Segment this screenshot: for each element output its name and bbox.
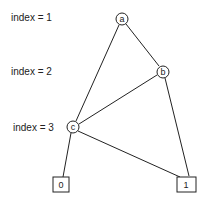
node-b-label: b bbox=[160, 67, 165, 77]
node-c: c bbox=[67, 121, 79, 133]
node-c-label: c bbox=[71, 122, 76, 132]
level-labels: index = 1 index = 2 index = 3 bbox=[11, 12, 54, 133]
level-label-2: index = 2 bbox=[11, 66, 52, 77]
bdd-diagram: index = 1 index = 2 index = 3 a b c 0 1 bbox=[0, 0, 211, 201]
terminal-zero: 0 bbox=[53, 177, 69, 192]
terminal-one-label: 1 bbox=[183, 180, 188, 190]
level-label-3: index = 3 bbox=[13, 122, 54, 133]
terminal-one: 1 bbox=[177, 177, 196, 192]
edges bbox=[63, 24, 189, 177]
node-b: b bbox=[157, 66, 169, 78]
edge-b-c bbox=[79, 75, 157, 124]
node-a: a bbox=[116, 13, 128, 25]
edge-b-one bbox=[165, 78, 189, 176]
edge-c-zero bbox=[63, 133, 71, 177]
edge-a-b bbox=[126, 24, 159, 66]
edge-c-one bbox=[78, 131, 180, 177]
node-a-label: a bbox=[119, 14, 124, 24]
edge-a-c bbox=[76, 25, 119, 121]
terminal-zero-label: 0 bbox=[58, 180, 63, 190]
level-label-1: index = 1 bbox=[11, 12, 52, 23]
